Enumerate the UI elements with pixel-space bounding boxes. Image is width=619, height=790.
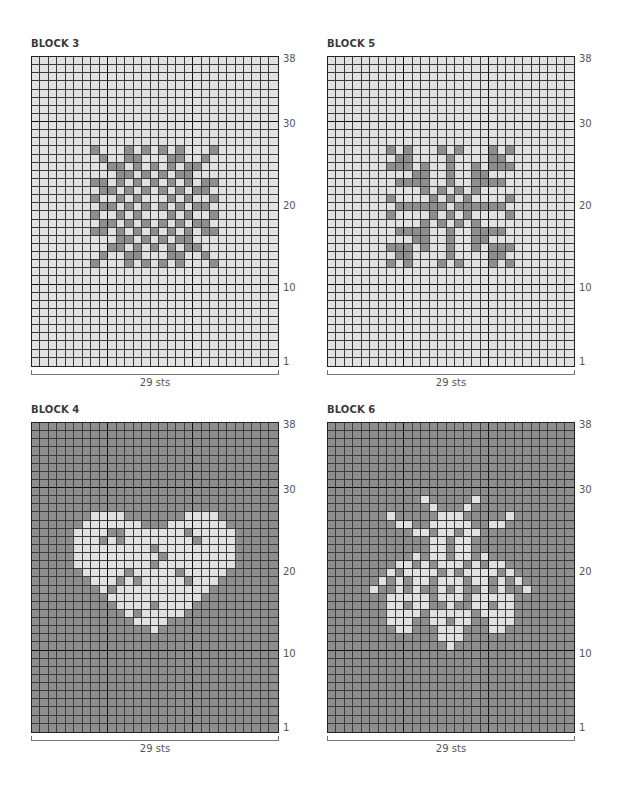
stitch-cell xyxy=(464,480,472,488)
stitch-cell xyxy=(91,195,99,203)
stitch-cell xyxy=(74,187,82,195)
stitch-cell xyxy=(40,268,48,276)
stitch-cell xyxy=(117,716,125,724)
stitch-cell xyxy=(540,228,548,236)
stitch-cell xyxy=(345,81,353,89)
stitch-cell xyxy=(328,504,336,512)
stitch-cell xyxy=(236,155,244,163)
stitch-cell xyxy=(430,106,438,114)
stitch-cell xyxy=(176,285,184,293)
stitch-cell xyxy=(404,707,412,715)
stitch-cell xyxy=(117,57,125,65)
stitch-cell xyxy=(74,667,82,675)
stitch-cell xyxy=(252,122,260,130)
stitch-cell xyxy=(447,577,455,585)
stitch-cell xyxy=(464,268,472,276)
stitch-cell xyxy=(489,122,497,130)
stitch-cell xyxy=(210,350,218,358)
stitch-cell xyxy=(74,211,82,219)
stitch-cell xyxy=(134,626,142,634)
stitch-cell xyxy=(540,130,548,138)
stitch-cell xyxy=(108,341,116,349)
stitch-cell xyxy=(83,691,91,699)
stitch-cell xyxy=(506,594,514,602)
stitch-cell xyxy=(370,472,378,480)
stitch-cell xyxy=(379,203,387,211)
stitch-cell xyxy=(353,545,361,553)
stitch-cell xyxy=(430,537,438,545)
stitch-cell xyxy=(74,155,82,163)
stitch-cell xyxy=(413,228,421,236)
stitch-cell xyxy=(328,228,336,236)
stitch-cell xyxy=(540,106,548,114)
stitch-cell xyxy=(261,553,269,561)
stitch-cell xyxy=(523,488,531,496)
stitch-cell xyxy=(176,179,184,187)
stitch-cell xyxy=(142,114,150,122)
stitch-cell xyxy=(362,537,370,545)
stitch-cell xyxy=(506,610,514,618)
stitch-cell xyxy=(108,431,116,439)
stitch-cell xyxy=(227,325,235,333)
stitch-cell xyxy=(413,73,421,81)
stitch-cell xyxy=(379,504,387,512)
stitch-cell xyxy=(100,325,108,333)
stitch-cell xyxy=(548,529,556,537)
stitch-cell xyxy=(91,81,99,89)
stitch-cell xyxy=(57,130,65,138)
stitch-cell xyxy=(481,130,489,138)
stitch-cell xyxy=(49,707,57,715)
stitch-cell xyxy=(370,341,378,349)
stitch-cell xyxy=(32,529,40,537)
stitch-cell xyxy=(430,155,438,163)
stitch-cell xyxy=(336,65,344,73)
stitch-cell xyxy=(219,236,227,244)
stitch-cell xyxy=(455,179,463,187)
stitch-cell xyxy=(49,260,57,268)
stitch-cell xyxy=(532,586,540,594)
stitch-cell xyxy=(74,651,82,659)
stitch-cell xyxy=(142,521,150,529)
stitch-cell xyxy=(269,325,277,333)
stitch-cell xyxy=(353,341,361,349)
stitch-cell xyxy=(269,285,277,293)
stitch-cell xyxy=(455,122,463,130)
stitch-cell xyxy=(489,358,497,366)
stitch-cell xyxy=(269,203,277,211)
stitch-cell xyxy=(362,610,370,618)
stitch-cell xyxy=(261,488,269,496)
stitch-cell xyxy=(244,504,252,512)
stitch-cell xyxy=(328,146,336,154)
stitch-cell xyxy=(557,675,565,683)
stitch-cell xyxy=(40,325,48,333)
stitch-cell xyxy=(236,724,244,732)
stitch-cell xyxy=(481,707,489,715)
stitch-cell xyxy=(227,187,235,195)
stitch-cell xyxy=(151,716,159,724)
stitch-cell xyxy=(83,707,91,715)
stitch-cell xyxy=(362,57,370,65)
stitch-cell xyxy=(193,634,201,642)
stitch-cell xyxy=(540,285,548,293)
stitch-cell xyxy=(565,577,573,585)
stitch-cell xyxy=(540,683,548,691)
stitch-cell xyxy=(159,447,167,455)
stitch-cell xyxy=(91,431,99,439)
stitch-cell xyxy=(447,456,455,464)
stitch-cell xyxy=(481,691,489,699)
stitch-cell xyxy=(261,73,269,81)
stitch-cell xyxy=(202,610,210,618)
stitch-cell xyxy=(108,594,116,602)
stitch-cell xyxy=(269,707,277,715)
stitch-cell xyxy=(261,545,269,553)
stitch-cell xyxy=(387,529,395,537)
stitch-cell xyxy=(396,171,404,179)
stitch-cell xyxy=(481,504,489,512)
stitch-cell xyxy=(430,211,438,219)
stitch-cell xyxy=(404,195,412,203)
stitch-cell xyxy=(421,130,429,138)
stitch-cell xyxy=(523,90,531,98)
stitch-cell xyxy=(557,171,565,179)
stitch-cell xyxy=(227,155,235,163)
stitch-cell xyxy=(49,73,57,81)
